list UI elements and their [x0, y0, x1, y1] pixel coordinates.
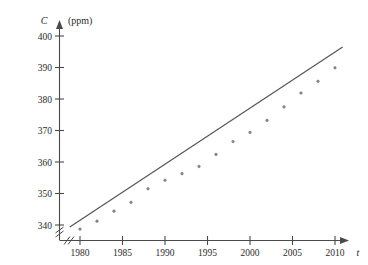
x-tick-label-2005: 2005	[283, 248, 302, 258]
x-tick-label-1980: 1980	[71, 248, 90, 258]
y-tick-label-370: 370	[38, 126, 53, 136]
data-point	[266, 119, 269, 122]
x-tick-label-1990: 1990	[156, 248, 175, 258]
data-point	[249, 131, 252, 134]
y-tick-label-390: 390	[38, 63, 53, 73]
x-tick-labels: 1980 1985 1990 1995 2000 2005 2010	[71, 248, 345, 258]
y-tick-label-350: 350	[38, 189, 53, 199]
data-point	[164, 179, 167, 182]
figure-root: 340 350 360 370 380 390 400 1980 1985 19…	[0, 0, 368, 265]
x-tick-label-1995: 1995	[198, 248, 217, 258]
y-axis-unit-label: (ppm)	[68, 15, 92, 27]
x-tick-label-1985: 1985	[113, 248, 132, 258]
y-tick-labels: 340 350 360 370 380 390 400	[38, 32, 53, 231]
data-point	[198, 165, 201, 168]
data-points-group	[79, 66, 337, 230]
y-tick-label-360: 360	[38, 158, 53, 168]
data-point	[79, 228, 82, 231]
data-point	[232, 140, 235, 143]
data-point	[215, 153, 218, 156]
y-axis-name-label: C	[41, 15, 48, 26]
data-point	[334, 66, 337, 69]
data-point	[317, 80, 320, 83]
x-tick-label-2010: 2010	[326, 248, 345, 258]
data-point	[147, 187, 150, 190]
x-axis-group	[60, 237, 350, 245]
x-tick-label-2000: 2000	[241, 248, 260, 258]
y-tick-label-340: 340	[38, 221, 53, 231]
y-tick-label-400: 400	[38, 32, 53, 42]
data-point	[96, 220, 99, 223]
y-axis-arrow-icon	[56, 20, 63, 29]
data-point	[283, 106, 286, 109]
data-point	[130, 201, 133, 204]
x-axis-name-label: t	[357, 247, 360, 258]
data-point	[300, 92, 303, 95]
data-point	[113, 210, 116, 213]
data-point	[181, 172, 184, 175]
x-axis-arrow-icon	[340, 237, 349, 244]
co2-scatter-chart: 340 350 360 370 380 390 400 1980 1985 19…	[0, 0, 368, 265]
linear-model-line	[70, 47, 343, 227]
y-tick-label-380: 380	[38, 95, 53, 105]
